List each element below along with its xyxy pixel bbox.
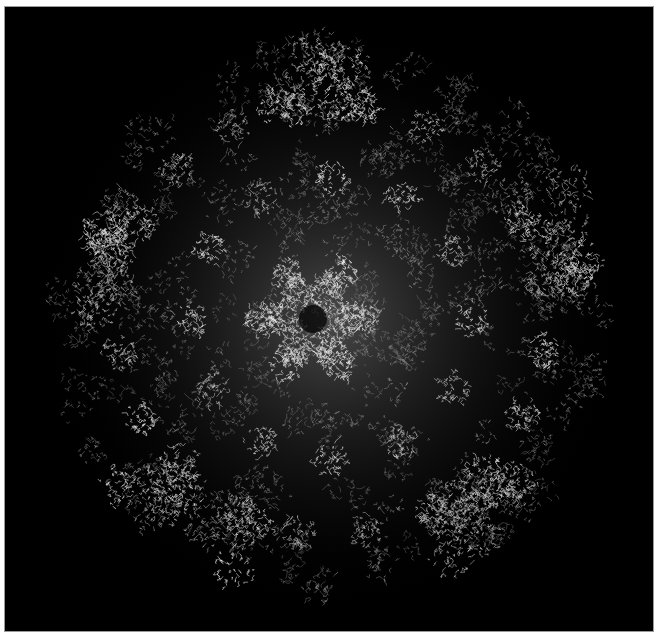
capsid-image-frame	[4, 6, 654, 632]
capsid-structure-render	[5, 7, 653, 631]
